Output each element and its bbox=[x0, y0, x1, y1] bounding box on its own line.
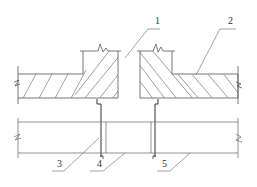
label-1: 1 bbox=[155, 15, 160, 26]
construction-drawing: 1 2 3 4 5 bbox=[0, 0, 257, 187]
right-hanger-rod bbox=[155, 99, 158, 157]
label-3: 3 bbox=[57, 158, 62, 169]
label-2: 2 bbox=[228, 15, 233, 26]
label-5: 5 bbox=[162, 158, 167, 169]
right-slab-section bbox=[136, 44, 242, 104]
left-hanger-rod bbox=[97, 99, 101, 157]
label-4: 4 bbox=[97, 158, 102, 169]
beam bbox=[14, 118, 242, 158]
leader-lines bbox=[52, 29, 236, 171]
left-slab-section bbox=[14, 44, 125, 104]
